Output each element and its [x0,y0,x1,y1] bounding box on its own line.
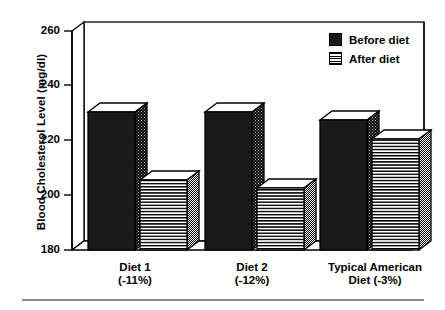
y-axis-ticks [64,31,72,250]
x-tick-label-diet-2: Diet 2 (-12%) [187,261,317,287]
legend-swatch-before-diet-icon [329,33,342,46]
x-tick-label-typical-american-diet-line2: Diet (-3%) [305,274,445,287]
y-tick-label-220: 220 [26,134,60,145]
y-tick-label-240: 240 [26,79,60,90]
bar-diet1-after [140,171,199,250]
chart-legend: Before diet After diet [329,31,409,69]
legend-swatch-after-diet-icon [329,52,342,65]
bar-diet2-before [205,103,264,250]
bar-typical-before [320,111,379,250]
legend-item-after-diet: After diet [329,50,409,67]
x-tick-label-typical-american-diet: Typical American Diet (-3%) [305,261,445,287]
y-tick-label-260: 260 [26,25,60,36]
legend-item-before-diet: Before diet [329,31,409,48]
bar-diet1-before [88,103,147,250]
x-tick-label-diet-1-line1: Diet 1 [119,261,150,273]
bar-typical-after [372,130,431,250]
chart-figure: Blood Cholesterol Level (mg/dl) 260 240 … [0,0,445,310]
footer-divider [22,299,424,301]
x-tick-label-diet-1-line2: (-11%) [70,274,200,287]
legend-label-before-diet: Before diet [349,34,409,46]
x-tick-label-typical-american-diet-line1: Typical American [328,261,422,273]
legend-label-after-diet: After diet [349,53,399,65]
bar-diet2-after [257,179,316,250]
x-tick-label-diet-1: Diet 1 (-11%) [70,261,200,287]
y-tick-label-200: 200 [26,189,60,200]
x-tick-label-diet-2-line1: Diet 2 [236,261,267,273]
x-tick-label-diet-2-line2: (-12%) [187,274,317,287]
y-tick-label-180: 180 [26,244,60,255]
